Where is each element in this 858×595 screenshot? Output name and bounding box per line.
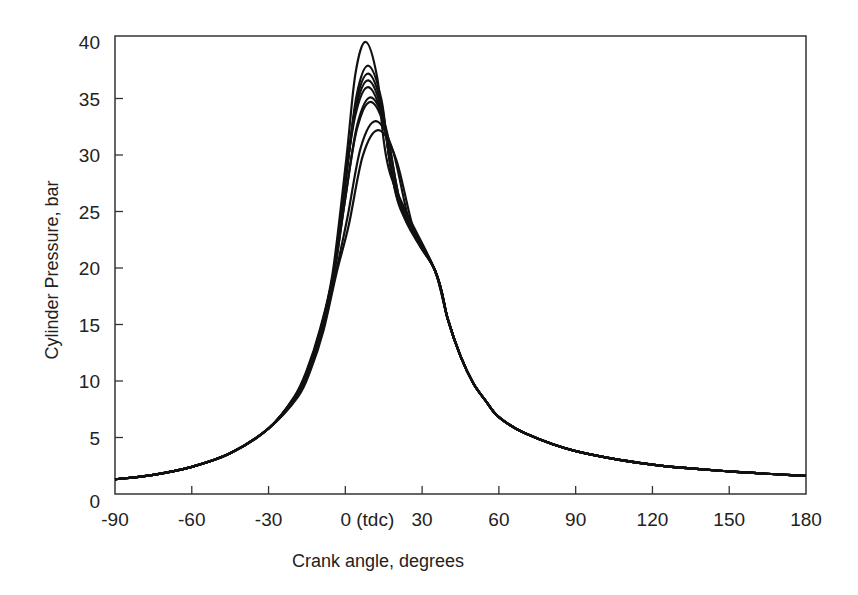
y-axis-ticks: 0510152025303540 (79, 32, 123, 512)
x-tick-label: -90 (101, 509, 128, 530)
x-tick-label: 0 (tdc) (340, 509, 394, 530)
pressure-trace (115, 97, 806, 479)
pressure-trace (115, 66, 806, 480)
y-tick-label: 20 (79, 258, 100, 279)
y-tick-label: 40 (79, 32, 100, 53)
y-tick-label: 5 (89, 428, 100, 449)
x-tick-label: 150 (713, 509, 745, 530)
x-axis-ticks: -90-60-300 (tdc)306090120150180 (101, 486, 822, 530)
x-tick-label: -30 (255, 509, 282, 530)
pressure-trace (115, 102, 806, 479)
pressure-trace (115, 121, 806, 479)
x-axis-title: Crank angle, degrees (292, 551, 464, 571)
y-tick-label: 30 (79, 145, 100, 166)
y-tick-label: 15 (79, 315, 100, 336)
x-tick-label: 30 (412, 509, 433, 530)
y-axis-title: Cylinder Pressure, bar (42, 180, 62, 359)
y-tick-label: 35 (79, 89, 100, 110)
x-tick-label: 90 (565, 509, 586, 530)
y-tick-label: 0 (89, 491, 100, 512)
x-tick-label: 180 (790, 509, 822, 530)
y-tick-label: 10 (79, 371, 100, 392)
x-tick-label: 120 (637, 509, 669, 530)
x-tick-label: -60 (178, 509, 205, 530)
y-tick-label: 25 (79, 202, 100, 223)
pressure-chart: -90-60-300 (tdc)306090120150180 05101520… (0, 0, 858, 595)
pressure-trace (115, 87, 806, 479)
pressure-trace (115, 80, 806, 479)
pressure-trace (115, 74, 806, 480)
pressure-trace (115, 42, 806, 479)
plot-frame (115, 36, 806, 494)
x-tick-label: 60 (488, 509, 509, 530)
pressure-trace (115, 130, 806, 479)
pressure-curves (115, 42, 806, 479)
